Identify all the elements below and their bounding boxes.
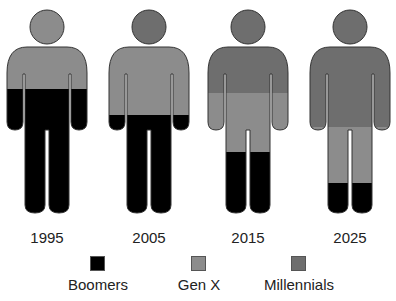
year-label-2015: 2015 (231, 229, 264, 246)
head-icon (30, 10, 64, 44)
year-label-2005: 2005 (132, 229, 165, 246)
head-icon (132, 10, 166, 44)
legend-label-boomers: Boomers (68, 276, 128, 293)
legend-label-millennials: Millennials (264, 276, 334, 293)
year-label-1995: 1995 (30, 229, 63, 246)
legend-swatch-genx (191, 256, 206, 271)
generation-figures (0, 0, 396, 230)
legend-label-genx: Gen X (178, 276, 221, 293)
year-label-2025: 2025 (333, 229, 366, 246)
head-icon (333, 10, 367, 44)
legend-swatch-boomers (90, 256, 105, 271)
head-icon (231, 10, 265, 44)
legend-swatch-millennials (291, 256, 306, 271)
